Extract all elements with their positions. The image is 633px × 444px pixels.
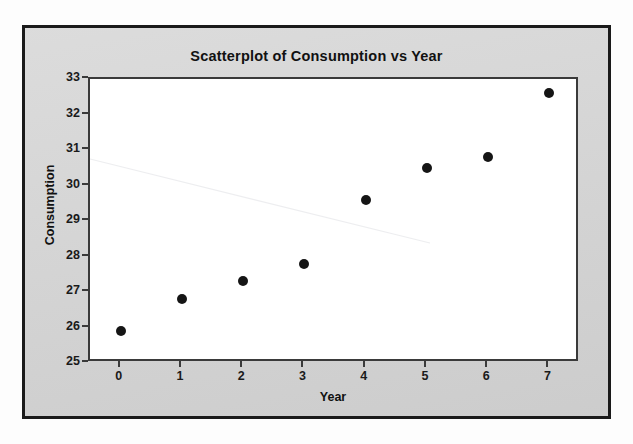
x-tick-mark: [240, 361, 242, 367]
x-tick-label: 1: [168, 369, 192, 383]
x-tick-label: 4: [352, 369, 376, 383]
y-tick-label: 27: [54, 283, 80, 297]
y-tick-label: 28: [54, 248, 80, 262]
y-tick-label: 25: [54, 354, 80, 368]
data-point: [116, 326, 126, 336]
page-background: Scatterplot of Consumption vs Year Consu…: [0, 0, 633, 444]
x-tick-label: 5: [413, 369, 437, 383]
x-tick-label: 0: [107, 369, 131, 383]
y-tick-label: 33: [54, 70, 80, 84]
x-tick-mark: [424, 361, 426, 367]
data-point: [177, 294, 187, 304]
y-tick-label: 31: [54, 141, 80, 155]
x-tick-mark: [118, 361, 120, 367]
data-point: [299, 259, 309, 269]
plot-area: [88, 77, 578, 361]
x-tick-mark: [301, 361, 303, 367]
data-point: [544, 88, 554, 98]
chart-panel: Scatterplot of Consumption vs Year Consu…: [22, 25, 611, 419]
x-tick-mark: [546, 361, 548, 367]
plot-inner: [90, 79, 576, 359]
x-tick-mark: [485, 361, 487, 367]
scan-artifact: [90, 157, 430, 245]
x-tick-label: 6: [474, 369, 498, 383]
y-tick-label: 26: [54, 319, 80, 333]
x-tick-label: 2: [229, 369, 253, 383]
chart-title: Scatterplot of Consumption vs Year: [25, 48, 608, 64]
x-tick-label: 7: [535, 369, 559, 383]
y-axis-ticks: 252627282930313233: [52, 77, 88, 361]
y-tick-label: 29: [54, 212, 80, 226]
x-tick-mark: [363, 361, 365, 367]
data-point: [238, 276, 248, 286]
data-point: [422, 163, 432, 173]
data-point: [483, 152, 493, 162]
x-axis-title: Year: [88, 390, 578, 404]
x-tick-label: 3: [290, 369, 314, 383]
x-tick-mark: [179, 361, 181, 367]
y-tick-label: 30: [54, 177, 80, 191]
data-point: [361, 195, 371, 205]
y-tick-label: 32: [54, 106, 80, 120]
